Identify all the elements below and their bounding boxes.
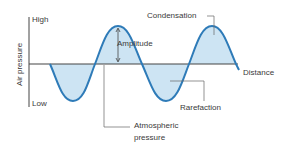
- x-axis-label: Distance: [243, 68, 274, 77]
- atmospheric-leader-line: [104, 65, 130, 127]
- rarefaction-label: Rarefaction: [180, 103, 221, 112]
- y-axis-low-label: Low: [32, 99, 47, 108]
- y-axis-label: Air pressure: [15, 43, 24, 86]
- y-axis-high-label: High: [32, 15, 48, 24]
- condensation-label: Condensation: [147, 11, 196, 20]
- atmospheric-label-line2: pressure: [134, 133, 165, 142]
- atmospheric-label-line1: Atmospheric: [134, 121, 178, 130]
- amplitude-label: Amplitude: [117, 39, 153, 48]
